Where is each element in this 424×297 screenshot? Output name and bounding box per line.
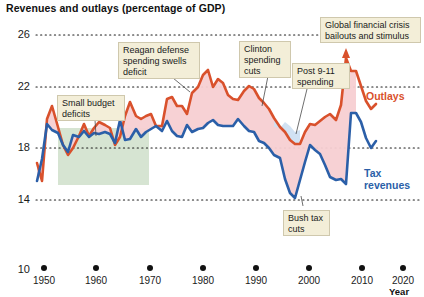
x-axis-dot-1970 (147, 265, 153, 271)
x-axis-dot-1990 (253, 265, 259, 271)
x-tick-2020: 2020 (383, 275, 423, 286)
x-axis-title: Year (389, 286, 409, 297)
y-tick-14: 14 (6, 193, 30, 205)
x-tick-1950: 1950 (24, 275, 64, 286)
gfc-arrow-marker (342, 48, 350, 58)
y-tick-10: 10 (6, 263, 30, 275)
x-tick-1980: 1980 (183, 275, 223, 286)
annotation-bush-tax-cuts: Bush tax cuts (283, 210, 330, 236)
series-label-tax-revenues: Tax revenues (364, 167, 410, 191)
x-tick-1970: 1970 (130, 275, 170, 286)
y-tick-18: 18 (6, 141, 30, 153)
y-tick-22: 22 (6, 80, 30, 92)
x-tick-2010: 2010 (342, 275, 382, 286)
series-label-outlays: Outlays (366, 90, 405, 102)
x-axis-dot-1980 (200, 265, 206, 271)
annotation-post-911: Post 9-11 spending (292, 63, 350, 89)
y-tick-26: 26 (6, 28, 30, 40)
x-axis-dot-2010 (359, 265, 365, 271)
x-axis-dot-1950 (41, 265, 47, 271)
x-axis-dot-2020 (400, 265, 406, 271)
chart-plot-area (0, 0, 424, 297)
annotation-small-budget-deficits: Small budget deficits (57, 95, 125, 121)
x-tick-2000: 2000 (289, 275, 329, 286)
x-axis-dot-2000 (306, 265, 312, 271)
annotation-clinton-cuts: Clinton spending cuts (239, 41, 291, 78)
x-axis-dot-1960 (93, 265, 99, 271)
x-tick-1990: 1990 (236, 275, 276, 286)
x-tick-1960: 1960 (76, 275, 116, 286)
annotation-global-financial-crisis: Global financial crisis bailouts and sti… (320, 17, 421, 43)
chart-container: Revenues and outlays (percentage of GDP) (0, 0, 424, 297)
annotation-reagan-defense: Reagan defense spending swells deficit (118, 42, 200, 79)
